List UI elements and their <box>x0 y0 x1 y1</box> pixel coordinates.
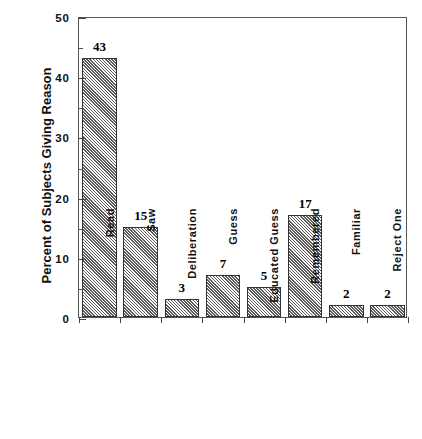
y-axis-tick-label: 40 <box>55 72 70 84</box>
x-axis-tick <box>79 317 80 323</box>
y-axis-tick-label: 0 <box>63 313 70 325</box>
y-axis-tick-major <box>79 138 86 139</box>
x-axis-tick <box>120 317 121 323</box>
y-axis-tick-major <box>79 319 86 320</box>
y-axis-tick-major <box>79 259 86 260</box>
x-axis-category-label: Deliberation <box>186 208 198 328</box>
y-axis-tick-major <box>79 18 86 19</box>
x-axis-category-label: Guess <box>227 208 239 328</box>
x-axis-tick <box>326 317 327 323</box>
y-axis-tick-label: 30 <box>55 132 70 144</box>
y-axis-tick-major <box>79 78 86 79</box>
x-axis-category-label: Familiar <box>350 208 362 328</box>
x-axis-tick <box>285 317 286 323</box>
y-axis-tick-minor <box>79 48 83 49</box>
y-axis-tick-major <box>79 199 86 200</box>
x-axis-tick <box>161 317 162 323</box>
x-axis-category-label: Reject One <box>391 208 403 328</box>
x-axis-category-label: Saw <box>145 208 157 328</box>
x-axis-category-label: Read <box>104 208 116 328</box>
y-axis-tick-label: 10 <box>55 253 70 265</box>
y-axis-tick-minor <box>79 229 83 230</box>
y-axis-tick-label: 50 <box>55 12 70 24</box>
bar-chart-figure: Percent of Subjects Giving Reason 431537… <box>0 0 422 439</box>
y-axis-tick-minor <box>79 169 83 170</box>
x-axis-category-label: Educated Guess <box>268 208 280 328</box>
x-axis-tick <box>202 317 203 323</box>
y-axis-tick-label: 20 <box>55 193 70 205</box>
x-axis-tick <box>367 317 368 323</box>
bar-value-label: 43 <box>79 39 120 55</box>
x-axis-tick <box>408 317 409 323</box>
y-axis-tick-minor <box>79 289 83 290</box>
y-axis-title: Percent of Subjects Giving Reason <box>39 26 54 326</box>
x-axis-tick <box>244 317 245 323</box>
x-axis-category-label: Remembered <box>309 208 321 328</box>
y-axis-tick-minor <box>79 108 83 109</box>
